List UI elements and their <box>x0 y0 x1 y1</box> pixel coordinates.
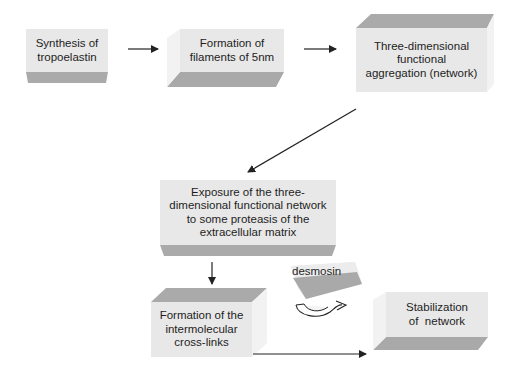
line: Synthesis of <box>36 37 99 49</box>
step-label-synthesis: Synthesis oftropoelastin <box>26 29 108 72</box>
line: to some proteasis of the <box>187 213 310 225</box>
step-label-stabilization: Stabilizationof network <box>386 292 488 337</box>
line: filaments of 5nm <box>190 51 274 63</box>
line: aggregation (network) <box>366 67 478 79</box>
line: Formation of the <box>160 309 244 321</box>
line: dimensional functional network <box>169 199 326 211</box>
curved-arrow-icon <box>296 301 346 316</box>
line: Stabilization <box>406 301 468 313</box>
step-label-aggregation: Three-dimensionalfunctionalaggregation (… <box>356 28 487 92</box>
step-label-crosslinks: Formation of theintermolecularcross-link… <box>151 302 252 357</box>
line: functional <box>397 53 446 65</box>
line: Exposure of the three- <box>191 186 305 198</box>
line: Three-dimensional <box>374 40 469 52</box>
step-label-filaments: Formation offilaments of 5nm <box>180 29 284 72</box>
line: tropoelastin <box>37 51 96 63</box>
line: intermolecular <box>165 323 237 335</box>
step-label-exposure: Exposure of the three-dimensional functi… <box>160 180 336 245</box>
line: Formation of <box>200 37 265 49</box>
line: cross-links <box>174 336 228 348</box>
line: desmosin <box>292 265 341 279</box>
line: of network <box>409 315 465 327</box>
line: extracellular matrix <box>200 226 297 238</box>
arrow-aggregation-to-exposure <box>248 109 356 172</box>
step-label-desmosin: desmosin <box>292 264 342 280</box>
